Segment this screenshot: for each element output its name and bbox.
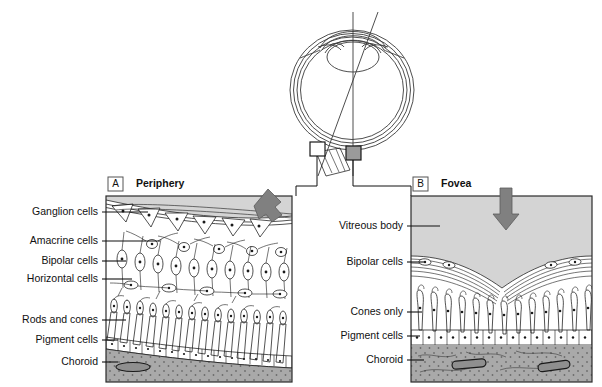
retina-figure: A Periphery <box>0 0 602 387</box>
label-amacrine-cells: Amacrine cells <box>30 234 98 246</box>
label-horizontal-cells: Horizontal cells <box>27 272 98 284</box>
label-choroid: Choroid <box>366 353 403 365</box>
connector-fovea <box>353 160 411 196</box>
label-choroid: Choroid <box>61 355 98 367</box>
label-vitreous-body: Vitreous body <box>339 219 404 231</box>
periphery-region-marker <box>310 142 325 156</box>
panel-a-letter: A <box>112 178 119 189</box>
choroid-blood-vessel <box>116 363 150 372</box>
label-pigment-cells: Pigment cells <box>341 329 403 341</box>
panel-b-title: Fovea <box>441 177 472 189</box>
choroid-layer-fovea <box>411 345 592 382</box>
label-cones-only: Cones only <box>350 305 403 317</box>
label-ganglion-cells: Ganglion cells <box>32 205 98 217</box>
panel-b-fovea: B Fovea <box>411 177 592 382</box>
connector-periphery <box>296 156 317 196</box>
label-pigment-cells: Pigment cells <box>36 333 98 345</box>
panel-a-title: Periphery <box>136 177 185 189</box>
panel-b-letter: B <box>417 178 424 189</box>
fovea-region-marker <box>346 146 361 160</box>
panel-a-periphery: A Periphery <box>106 177 292 382</box>
eye-cross-section <box>290 12 414 176</box>
label-bipolar-cells: Bipolar cells <box>41 254 98 266</box>
label-bipolar-cells: Bipolar cells <box>346 255 403 267</box>
label-rods-and-cones: Rods and cones <box>22 313 98 325</box>
